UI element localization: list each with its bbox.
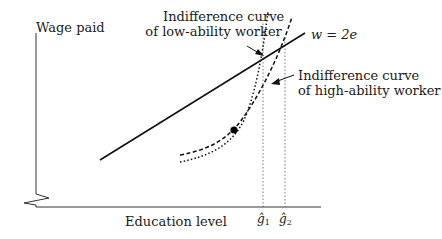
g1-symbol: ĝ [257, 212, 265, 226]
low-ability-label-line2: of low-ability worker [143, 24, 284, 39]
axis-break-icon [24, 190, 49, 207]
y-axis-label: Wage paid [36, 20, 105, 35]
g2-tick-label: ĝ2 [279, 212, 292, 230]
high-ability-label-line1: Indifference curve [298, 68, 441, 83]
g1-tick-label: ĝ1 [257, 212, 270, 230]
g2-symbol: ĝ [279, 212, 287, 226]
equilibrium-point [230, 126, 237, 133]
x-axis-label: Education level [125, 214, 227, 229]
high-ability-arrowhead-icon [271, 78, 280, 85]
wage-line-label: w = 2e [311, 27, 357, 42]
g1-subscript: 1 [265, 218, 270, 227]
g2-subscript: 2 [287, 218, 292, 227]
high-ability-curve-label: Indifference curve of high-ability worke… [298, 68, 441, 98]
high-ability-label-line2: of high-ability worker [298, 83, 441, 98]
low-ability-curve-label: Indifference curve of low-ability worker [143, 9, 284, 39]
wage-line [100, 33, 305, 160]
low-ability-label-line1: Indifference curve [143, 9, 284, 24]
